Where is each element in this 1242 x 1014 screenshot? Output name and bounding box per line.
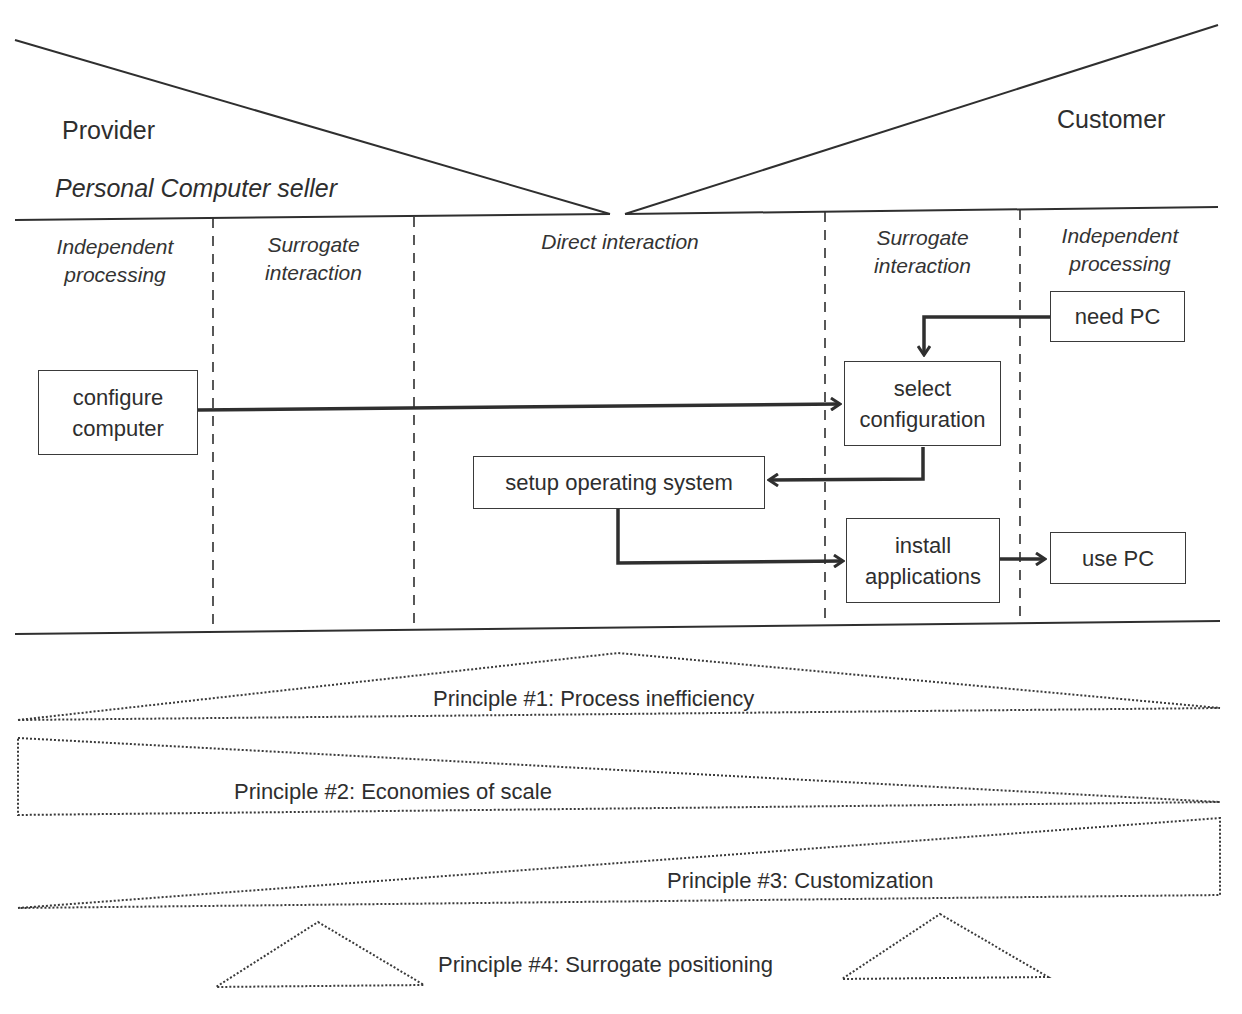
region-direct-line1: Direct interaction xyxy=(420,228,820,256)
customer-label: Customer xyxy=(1057,105,1165,134)
step-select-configuration-line1: select xyxy=(860,373,986,404)
step-install-applications-line1: install xyxy=(865,530,981,561)
step-use-pc-label: use PC xyxy=(1082,543,1154,574)
principle-4-label: Principle #4: Surrogate positioning xyxy=(438,952,773,978)
principle-2-label: Principle #2: Economies of scale xyxy=(234,779,552,805)
region-customer-surrogate: Surrogate interaction xyxy=(826,224,1019,280)
region-provider-independent-line1: Independent xyxy=(20,233,210,261)
principle-4-right-triangle xyxy=(842,914,1048,979)
provider-label: Provider xyxy=(62,116,155,145)
region-customer-surrogate-line1: Surrogate xyxy=(826,224,1019,252)
principle-3-label: Principle #3: Customization xyxy=(667,868,934,894)
lane-bottom-line xyxy=(15,621,1220,634)
region-provider-surrogate-line1: Surrogate xyxy=(216,231,411,259)
region-provider-independent: Independent processing xyxy=(20,233,210,289)
region-customer-independent-line2: processing xyxy=(1022,250,1218,278)
region-customer-independent: Independent processing xyxy=(1022,222,1218,278)
region-provider-surrogate-line2: interaction xyxy=(216,259,411,287)
step-setup-os-label: setup operating system xyxy=(505,467,732,498)
step-select-configuration-line2: configuration xyxy=(860,404,986,435)
step-install-applications-line2: applications xyxy=(865,561,981,592)
principle-1-label: Principle #1: Process inefficiency xyxy=(433,686,754,712)
arrow-setup-to-install xyxy=(618,509,843,563)
region-direct-interaction: Direct interaction xyxy=(420,228,820,256)
step-need-pc-label: need PC xyxy=(1075,301,1161,332)
principle-2-shape xyxy=(18,738,1220,815)
region-customer-independent-line1: Independent xyxy=(1022,222,1218,250)
region-provider-surrogate: Surrogate interaction xyxy=(216,231,411,287)
step-configure-computer-line1: configure xyxy=(72,382,164,413)
arrow-configure-to-select xyxy=(197,404,840,410)
step-setup-operating-system[interactable]: setup operating system xyxy=(473,456,765,509)
region-customer-surrogate-line2: interaction xyxy=(826,252,1019,280)
step-install-applications[interactable]: install applications xyxy=(846,518,1000,603)
arrow-need-pc-to-select xyxy=(924,317,1050,355)
step-configure-computer[interactable]: configure computer xyxy=(38,370,198,455)
provider-subtitle: Personal Computer seller xyxy=(55,174,337,203)
step-select-configuration[interactable]: select configuration xyxy=(844,361,1001,446)
step-need-pc[interactable]: need PC xyxy=(1050,291,1185,342)
arrow-select-to-setup xyxy=(769,447,923,480)
region-provider-independent-line2: processing xyxy=(20,261,210,289)
step-configure-computer-line2: computer xyxy=(72,413,164,444)
principle-4-left-triangle xyxy=(216,922,424,987)
step-use-pc[interactable]: use PC xyxy=(1050,532,1186,584)
principle-3-shape xyxy=(18,818,1220,908)
